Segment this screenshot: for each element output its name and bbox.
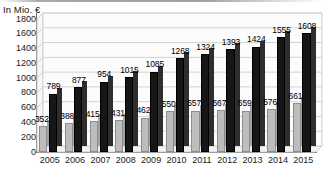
y-tick-label: 1800 bbox=[2, 15, 36, 24]
bar-value-label: 388 bbox=[60, 112, 74, 121]
x-tick-label-2010: 2010 bbox=[164, 155, 190, 166]
bar-value-label: 1555 bbox=[272, 26, 291, 35]
bar-black-series-2006 bbox=[74, 87, 82, 152]
bar-front-face bbox=[74, 87, 82, 152]
bar-gray-series-2006 bbox=[65, 123, 73, 152]
bar-side-face bbox=[260, 41, 265, 146]
bar-black-series-2005 bbox=[49, 94, 57, 152]
bar-black-series-2007 bbox=[100, 82, 108, 152]
bar-front-face bbox=[39, 126, 47, 152]
x-tick-label-2007: 2007 bbox=[87, 155, 113, 166]
bar-front-face bbox=[90, 121, 98, 152]
bar-value-label: 877 bbox=[72, 76, 86, 85]
bar-gray-series-2015 bbox=[293, 103, 301, 152]
bar-value-label: 352 bbox=[35, 115, 49, 124]
bar-front-face bbox=[65, 123, 73, 152]
bar-value-label: 661 bbox=[289, 92, 303, 101]
y-axis-tick-labels: 020040060080010001200140016001800 bbox=[0, 0, 36, 170]
bar-value-label: 789 bbox=[47, 82, 61, 91]
x-tick-label-2011: 2011 bbox=[189, 155, 215, 166]
x-tick-label-2006: 2006 bbox=[62, 155, 88, 166]
bar-black-series-2010 bbox=[176, 58, 184, 152]
x-tick-label-2008: 2008 bbox=[113, 155, 139, 166]
bar-front-face bbox=[277, 37, 285, 152]
bar-black-series-2014 bbox=[277, 37, 285, 152]
bar-gray-series-2012 bbox=[217, 110, 225, 152]
bar-front-face bbox=[115, 120, 123, 152]
y-tick-label: 0 bbox=[2, 148, 36, 157]
x-tick-label-2012: 2012 bbox=[214, 155, 240, 166]
bar-front-face bbox=[302, 33, 310, 152]
chart-container: In Mio. € 020040060080010001200140016001… bbox=[0, 0, 326, 170]
y-tick-label: 400 bbox=[2, 118, 36, 127]
bar-value-label: 557 bbox=[187, 99, 201, 108]
bar-front-face bbox=[217, 110, 225, 152]
bar-value-label: 1268 bbox=[171, 47, 190, 56]
bar-value-label: 1085 bbox=[146, 60, 165, 69]
bar-value-label: 1393 bbox=[222, 38, 241, 47]
bar-front-face bbox=[267, 109, 275, 152]
bar-gray-series-2007 bbox=[90, 121, 98, 152]
bar-side-face bbox=[311, 27, 316, 146]
y-tick-label: 1600 bbox=[2, 29, 36, 38]
bar-front-face bbox=[191, 111, 199, 152]
plot-area: 3527893888774159544311015462108555012685… bbox=[37, 19, 316, 152]
bar-value-label: 576 bbox=[263, 98, 277, 107]
bar-front-face bbox=[141, 118, 149, 152]
bar-black-series-2015 bbox=[302, 33, 310, 152]
top-edge-rule bbox=[0, 0, 326, 2]
bar-value-label: 559 bbox=[238, 99, 252, 108]
x-tick-label-2015: 2015 bbox=[290, 155, 316, 166]
bar-gray-series-2013 bbox=[242, 111, 250, 152]
bar-front-face bbox=[166, 111, 174, 152]
bar-black-series-2013 bbox=[252, 47, 260, 152]
bar-front-face bbox=[252, 47, 260, 152]
bar-value-label: 1015 bbox=[120, 66, 139, 75]
bar-black-series-2011 bbox=[201, 54, 209, 152]
y-tick-label: 200 bbox=[2, 133, 36, 142]
bar-front-face bbox=[100, 82, 108, 152]
bar-black-series-2008 bbox=[125, 77, 133, 152]
bar-value-label: 431 bbox=[111, 109, 125, 118]
bar-value-label: 462 bbox=[136, 106, 150, 115]
bar-value-label: 1424 bbox=[247, 35, 266, 44]
y-tick-label: 1000 bbox=[2, 74, 36, 83]
bar-front-face bbox=[242, 111, 250, 152]
x-tick-label-2013: 2013 bbox=[240, 155, 266, 166]
bar-gray-series-2014 bbox=[267, 109, 275, 152]
bar-value-label: 550 bbox=[162, 100, 176, 109]
bar-front-face bbox=[49, 94, 57, 152]
bar-gray-series-2008 bbox=[115, 120, 123, 152]
bar-value-label: 954 bbox=[97, 70, 111, 79]
y-tick-label: 1200 bbox=[2, 59, 36, 68]
y-tick-label: 800 bbox=[2, 88, 36, 97]
bar-value-label: 415 bbox=[86, 110, 100, 119]
bar-value-label: 1324 bbox=[196, 43, 215, 52]
bar-black-series-2009 bbox=[150, 72, 158, 152]
bar-value-label: 567 bbox=[212, 99, 226, 108]
bar-front-face bbox=[293, 103, 301, 152]
bar-gray-series-2011 bbox=[191, 111, 199, 152]
bar-front-face bbox=[201, 54, 209, 152]
y-tick-label: 600 bbox=[2, 103, 36, 112]
x-tick-label-2005: 2005 bbox=[37, 155, 63, 166]
bar-gray-series-2005 bbox=[39, 126, 47, 152]
bar-gray-series-2010 bbox=[166, 111, 174, 152]
bar-gray-series-2009 bbox=[141, 118, 149, 152]
y-tick-label: 1400 bbox=[2, 44, 36, 53]
x-tick-label-2009: 2009 bbox=[138, 155, 164, 166]
bar-side-face bbox=[235, 43, 240, 146]
bar-front-face bbox=[176, 58, 184, 152]
bar-front-face bbox=[150, 72, 158, 152]
x-tick-label-2014: 2014 bbox=[265, 155, 291, 166]
bar-black-series-2012 bbox=[226, 49, 234, 152]
bar-front-face bbox=[125, 77, 133, 152]
x-axis-tick-labels: 2005200620072008200920102011201220132014… bbox=[37, 155, 316, 169]
bar-front-face bbox=[226, 49, 234, 152]
bar-side-face bbox=[285, 31, 290, 146]
bar-value-label: 1608 bbox=[298, 22, 317, 31]
